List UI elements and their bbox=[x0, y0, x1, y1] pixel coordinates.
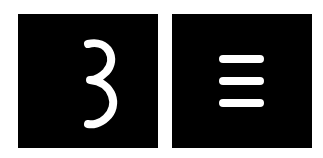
digit-three-icon bbox=[18, 14, 158, 148]
triple-bar-icon bbox=[172, 14, 312, 148]
tile-digit-three: 3 bbox=[18, 14, 158, 148]
tile-triple-bar: ≡ bbox=[172, 14, 312, 148]
